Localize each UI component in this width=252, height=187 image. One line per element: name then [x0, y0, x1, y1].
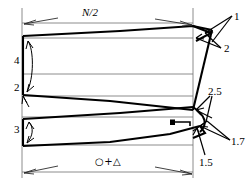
- callout-label-4: 4: [14, 55, 20, 66]
- callout-label-1-7: 1.7: [231, 136, 245, 147]
- leader-callout-1-a: [205, 16, 232, 33]
- arrow-bottom-right: [155, 167, 192, 174]
- upper-top-edge: [23, 26, 212, 36]
- callout-label-1-5: 1.5: [199, 157, 213, 168]
- upper-profile-outline: [23, 26, 212, 110]
- dimension-label-top: N/2: [82, 7, 98, 18]
- internal-clip-feature: [170, 120, 190, 127]
- extension-lines: [22, 8, 193, 178]
- technical-drawing-figure: N/2 ○+△ 4 2 3 1 2 2.5 1.7 1.5: [0, 0, 252, 187]
- leader-callout-4-head-bottom: [27, 84, 34, 92]
- leader-callout-3-head-top: [26, 122, 34, 129]
- lower-profile-outline: [23, 107, 205, 146]
- upper-right-wedge: [193, 30, 212, 110]
- callout-label-2-5: 2.5: [208, 86, 222, 97]
- leader-callout-4: [27, 41, 32, 92]
- callout-label-2-left: 2: [14, 82, 20, 93]
- callout-label-3: 3: [14, 124, 20, 135]
- dimension-label-bottom: ○+△: [95, 157, 121, 167]
- leader-callout-1-b: [212, 16, 232, 42]
- arrow-top-right: [155, 19, 192, 25]
- clip-block: [170, 120, 175, 126]
- callout-label-2-right: 2: [224, 43, 230, 54]
- lower-bottom-edge: [23, 126, 200, 146]
- callout-label-1: 1: [234, 11, 240, 22]
- upper-bottom-edge: [23, 95, 193, 110]
